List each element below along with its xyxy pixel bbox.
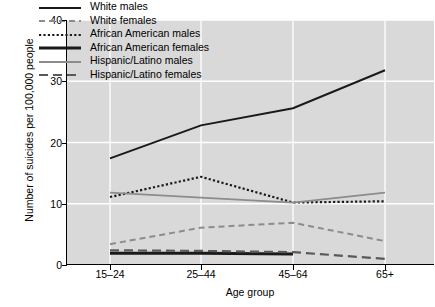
legend-line-swatch	[38, 41, 82, 55]
legend-line-swatch	[38, 68, 82, 82]
legend-line-swatch	[38, 14, 82, 28]
y-tick-mark	[62, 20, 67, 21]
legend-label: Hispanic/Latino males	[90, 54, 193, 68]
suicide-rate-line-chart: Number of suicides per 100,000 people 01…	[0, 0, 435, 307]
legend-label: African American males	[90, 27, 200, 41]
legend-label: White females	[90, 14, 157, 28]
legend-item: White males	[38, 0, 278, 14]
series-line	[110, 253, 293, 254]
y-tick-label: 20	[36, 138, 62, 148]
legend-line-swatch	[38, 54, 82, 68]
y-tick-label: 10	[36, 199, 62, 209]
y-tick-mark	[62, 143, 67, 144]
y-tick-mark	[62, 81, 67, 82]
x-axis-line	[66, 264, 434, 265]
series-lines	[110, 70, 385, 259]
legend-line-swatch	[38, 27, 82, 41]
series-line	[110, 70, 385, 158]
legend-label: African American females	[90, 41, 209, 55]
x-tick-mark	[110, 265, 111, 270]
legend-item: Hispanic/Latino females	[38, 68, 278, 82]
legend-label: Hispanic/Latino females	[90, 68, 201, 82]
legend-item: Hispanic/Latino males	[38, 54, 278, 68]
x-tick-mark	[293, 265, 294, 270]
legend-label: White males	[90, 0, 148, 14]
x-tick-mark	[385, 265, 386, 270]
legend-item: African American males	[38, 27, 278, 41]
series-line	[110, 223, 385, 244]
x-tick-mark	[201, 265, 202, 270]
y-tick-label: 0	[36, 260, 62, 270]
legend-line-swatch	[38, 0, 82, 14]
x-axis-label: Age group	[66, 286, 434, 298]
legend-item: African American females	[38, 41, 278, 55]
series-line	[110, 177, 385, 203]
y-tick-mark	[62, 265, 67, 266]
y-tick-mark	[62, 204, 67, 205]
chart-legend: White malesWhite femalesAfrican American…	[38, 0, 278, 81]
legend-item: White females	[38, 14, 278, 28]
